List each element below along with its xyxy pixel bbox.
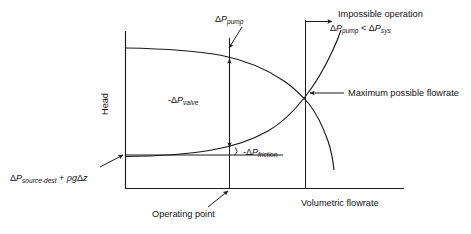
source-dest-annotation: ΔPsource-dest+ρgΔz: [10, 155, 123, 184]
operating-point-label: Operating point: [152, 209, 215, 219]
delta-p-friction-brace: [235, 147, 238, 155]
delta-p-friction-label: -ΔPfriction: [243, 147, 278, 158]
delta-p-valve-label: -ΔPvalve: [168, 95, 199, 106]
x-axis-label: Volumetric flowrate: [301, 198, 379, 208]
operating-point-leader: [208, 191, 228, 207]
delta-p-pump-leader: [229, 27, 242, 48]
maximum-flowrate-annotation: Maximum possible flowrate: [310, 88, 459, 98]
source-dest-label: ΔPsource-dest+ρgΔz: [10, 173, 88, 184]
impossible-operation-line1: Impossible operation: [338, 9, 423, 19]
maximum-flowrate-label: Maximum possible flowrate: [348, 88, 459, 98]
delta-p-valve-dimension: -ΔPvalve: [168, 59, 230, 147]
figure-root: ΔPpump Impossible operation ΔPpump<ΔPsys…: [0, 0, 471, 234]
impossible-operation-annotation: Impossible operation ΔPpump<ΔPsys: [306, 9, 423, 35]
operating-point-annotation: Operating point: [152, 191, 228, 219]
delta-p-pump-label: ΔPpump: [215, 14, 244, 26]
delta-p-friction-dimension: -ΔPfriction: [235, 147, 278, 158]
y-axis-label: Head: [100, 93, 110, 115]
pump-system-curve-diagram: ΔPpump Impossible operation ΔPpump<ΔPsys…: [0, 0, 471, 234]
source-dest-leader: [100, 155, 123, 167]
axes-group: [125, 31, 404, 189]
